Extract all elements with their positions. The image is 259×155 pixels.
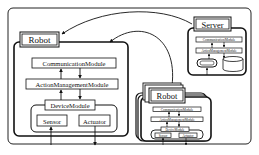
stacked-device-module-label: DeviceModule bbox=[166, 128, 186, 132]
left-device-module-label: DeviceModule bbox=[50, 102, 89, 109]
cloud-robot-architecture-diagram: Robot CommunicationModule ActionManageme… bbox=[0, 0, 259, 155]
left-robot-title: Robot bbox=[28, 35, 51, 45]
left-action-management-module-label: ActionManagementModule bbox=[36, 81, 109, 88]
stacked-action-management-module-label: ActionManagementModule bbox=[159, 118, 195, 122]
left-sensor-label: Sensor bbox=[43, 118, 62, 125]
stacked-robot-title: Robot bbox=[157, 91, 178, 101]
server: Server CommunicationModule ActionManagem… bbox=[188, 17, 246, 75]
arrow-robot-to-robots bbox=[110, 31, 173, 86]
stacked-actuator-label: Actuator bbox=[182, 134, 194, 138]
server-communication-module-label: CommunicationModule bbox=[203, 38, 236, 42]
left-actuator-label: Actuator bbox=[83, 118, 107, 125]
left-communication-module-label: CommunicationModule bbox=[42, 60, 105, 67]
left-robot: Robot CommunicationModule ActionManageme… bbox=[14, 32, 128, 145]
stacked-communication-module-label: CommunicationModule bbox=[161, 108, 194, 112]
database-icon bbox=[223, 57, 243, 72]
stacked-robots: Robot CommunicationModule ActionManageme… bbox=[136, 83, 211, 145]
arrow-server-to-robot bbox=[62, 12, 192, 34]
stacked-sensor-label: Sensor bbox=[159, 134, 169, 138]
server-action-management-module-label: ActionManagementModule bbox=[201, 49, 237, 53]
server-title: Server bbox=[201, 20, 223, 30]
